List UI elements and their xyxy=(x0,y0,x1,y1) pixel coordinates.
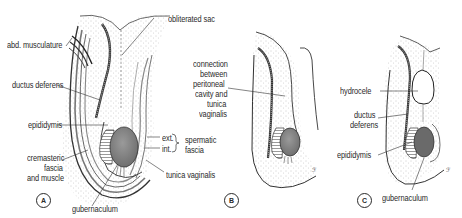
label-ductus-deferens-a: ductus deferens xyxy=(12,80,63,90)
label-connection-1: connection xyxy=(193,59,228,69)
label-tunica-vaginalis: tunica vaginalis xyxy=(166,170,215,180)
panel-c: ℱ xyxy=(378,36,451,190)
label-ext: ext. xyxy=(162,133,174,143)
label-cremasteric-3: and muscle xyxy=(27,173,64,183)
label-gubernaculum-a: gubernaculum xyxy=(72,204,118,214)
label-ductus-c-1: ductus xyxy=(354,110,375,120)
label-ductus-c-2: deferens xyxy=(350,120,378,130)
label-cremasteric-1: cremasteric xyxy=(27,153,64,163)
label-cremasteric-2: fascia xyxy=(44,163,63,173)
label-connection-6: vaginalis xyxy=(199,109,227,119)
svg-text:ℱ: ℱ xyxy=(312,167,317,173)
label-obliterated-sac: obliterated sac xyxy=(168,14,215,24)
panel-c-badge: C xyxy=(357,193,372,208)
label-epididymis-a: epididymis xyxy=(28,120,62,130)
label-fascia: fascia xyxy=(185,145,204,155)
label-int: int. xyxy=(162,144,172,154)
label-connection-2: between xyxy=(200,69,227,79)
label-hydrocele: hydrocele xyxy=(340,86,371,96)
label-epididymis-c: epididymis xyxy=(337,150,371,160)
label-spermatic: spermatic xyxy=(185,135,216,145)
panel-b-badge: B xyxy=(224,193,239,208)
figure: ℱ ℱ abd. musculature oblitera xyxy=(0,0,462,218)
panel-b: ℱ xyxy=(228,32,318,188)
label-connection-5: tunica xyxy=(207,99,226,109)
svg-text:ℱ: ℱ xyxy=(446,167,451,173)
panel-a-badge: A xyxy=(36,193,51,208)
label-connection-4: cavity and xyxy=(195,89,227,99)
panel-a xyxy=(57,14,179,206)
label-gubernaculum-c: gubernaculum xyxy=(382,193,428,203)
label-connection-3: peritoneal xyxy=(193,79,225,89)
diagram-canvas: ℱ ℱ xyxy=(0,0,462,218)
label-abd-musculature: abd. musculature xyxy=(7,40,62,50)
